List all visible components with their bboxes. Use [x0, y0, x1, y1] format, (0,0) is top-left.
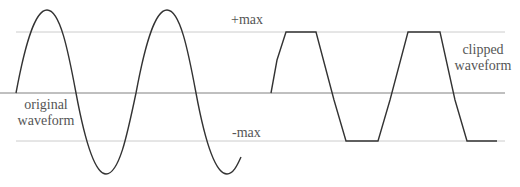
- minus-max-label: -max: [232, 125, 261, 141]
- original-label-line-1: original: [17, 97, 75, 113]
- clipped-label-line-2: waveform: [453, 58, 513, 74]
- clipping-diagram: [0, 0, 520, 187]
- clipped-label-line-1: clipped: [453, 42, 513, 58]
- original-waveform-label: original waveform: [17, 97, 75, 129]
- plus-max-label: +max: [231, 12, 263, 28]
- clipped-waveform-label: clipped waveform: [453, 42, 513, 74]
- original-waveform: [16, 10, 241, 174]
- original-label-line-2: waveform: [17, 113, 75, 129]
